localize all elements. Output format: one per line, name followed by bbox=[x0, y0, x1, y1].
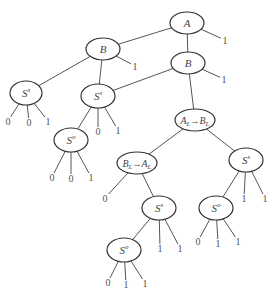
tree-node: Ss bbox=[142, 196, 176, 220]
leaf-value: 1 bbox=[116, 125, 121, 136]
leaf-value: 0 bbox=[50, 172, 55, 183]
leaf-value: 1 bbox=[89, 172, 94, 183]
tree-node: B bbox=[171, 52, 205, 74]
leaf-value: 0 bbox=[27, 117, 32, 128]
leaf-value: 1 bbox=[143, 278, 148, 289]
node-label: B bbox=[100, 43, 107, 55]
leaf-value: 0 bbox=[69, 173, 74, 184]
tree-node: So bbox=[107, 238, 141, 262]
tree-node: Ss bbox=[229, 148, 263, 172]
tree-diagram: ABBSsSsSoAL→BLBL→ALSsSoSsSo 111001010010… bbox=[0, 0, 277, 300]
leaf-value: 1 bbox=[46, 116, 51, 127]
leaf-value: 1 bbox=[263, 193, 268, 204]
leaf-value: 1 bbox=[178, 243, 183, 254]
node-label: B bbox=[185, 57, 192, 69]
leaf-value: 0 bbox=[6, 116, 11, 127]
tree-node: Ss bbox=[10, 81, 42, 105]
leaf-value: 0 bbox=[106, 277, 111, 288]
tree-node: So bbox=[54, 128, 88, 152]
leaf-value: 1 bbox=[236, 236, 241, 247]
tree-node: AL→BL bbox=[175, 109, 215, 131]
nodes-layer: ABBSsSsSoAL→BLBL→ALSsSoSsSo bbox=[10, 12, 263, 262]
leaf-value: 1 bbox=[222, 74, 227, 85]
leaf-value: 0 bbox=[96, 126, 101, 137]
leaf-value: 1 bbox=[242, 193, 247, 204]
leaf-value: 1 bbox=[124, 279, 129, 290]
tree-node: So bbox=[199, 196, 233, 220]
tree-node: BL→AL bbox=[117, 152, 157, 174]
leaf-value: 1 bbox=[223, 35, 228, 46]
leaf-value: 1 bbox=[133, 61, 138, 72]
leaf-value: 0 bbox=[196, 236, 201, 247]
tree-node: Ss bbox=[81, 84, 115, 108]
tree-node: A bbox=[170, 12, 204, 34]
leaf-value: 0 bbox=[103, 193, 108, 204]
node-label: A bbox=[183, 17, 191, 29]
leaf-value: 1 bbox=[216, 238, 221, 249]
tree-node: B bbox=[86, 38, 120, 60]
leaf-value: 1 bbox=[158, 243, 163, 254]
